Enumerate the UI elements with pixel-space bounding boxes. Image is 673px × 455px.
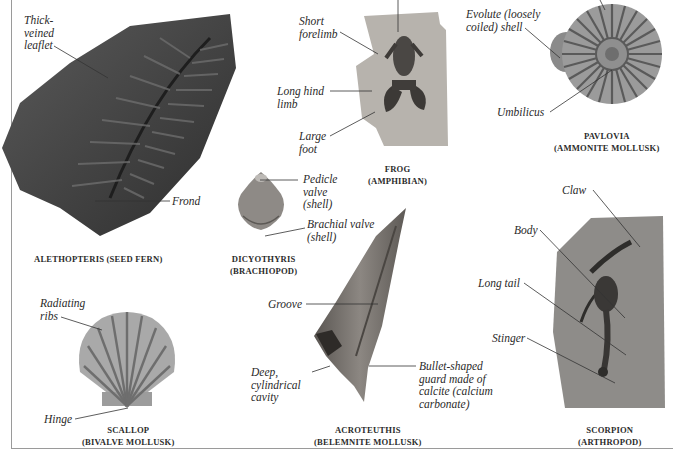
caption-dicyothyris: DICYOTHYRIS (BRACHIOPOD): [230, 253, 297, 277]
label-body: Body: [514, 224, 538, 237]
label-brachial-valve: Brachial valve (shell): [307, 218, 374, 243]
frog-fossil-image: [352, 10, 452, 148]
caption-acroteuthis: ACROTEUTHIS (BELEMNITE MOLLUSK): [314, 424, 422, 448]
caption-scallop: SCALLOP (BIVALVE MOLLUSK): [82, 424, 174, 448]
label-long-hind-limb: Long hind limb: [277, 85, 324, 110]
label-bullet-shaped-guard: Bullet-shaped guard made of calcite (cal…: [419, 360, 493, 410]
pavlovia-ammonite-image: [544, 0, 664, 118]
label-long-tail: Long tail: [478, 277, 520, 290]
label-deep-cylindrical-cavity: Deep, cylindrical cavity: [251, 366, 301, 404]
scorpion-fossil-image: [551, 212, 666, 408]
label-groove: Groove: [268, 298, 302, 311]
label-umbilicus: Umbilicus: [497, 106, 544, 119]
label-radiating-ribs: Radiating ribs: [40, 297, 85, 322]
bottom-border-rule: [11, 448, 673, 449]
label-short-forelimb: Short forelimb: [299, 15, 338, 40]
label-pedicle-valve: Pedicle valve (shell): [303, 173, 337, 211]
label-hinge: Hinge: [44, 413, 72, 426]
label-evolute-shell: Evolute (loosely coiled) shell: [466, 8, 540, 33]
label-claw: Claw: [562, 184, 586, 197]
label-thick-veined-leaflet: Thick- veined leaflet: [24, 14, 54, 52]
caption-pavlovia: PAVLOVIA (AMMONITE MOLLUSK): [554, 130, 660, 154]
label-frond: Frond: [172, 195, 200, 208]
scallop-shell-image: [72, 306, 182, 410]
label-large-foot: Large foot: [299, 130, 326, 155]
dicyothyris-brachiopod-image: [233, 170, 289, 232]
caption-frog: FROG (AMPHIBIAN): [368, 163, 427, 187]
caption-scorpion: SCORPION (ARTHROPOD): [578, 424, 641, 448]
label-stinger: Stinger: [492, 332, 525, 345]
fossil-illustration-page: Thick- veined leaflet Frond ALETHOPTERIS…: [0, 0, 673, 455]
caption-alethopteris: ALETHOPTERIS (SEED FERN): [34, 253, 162, 265]
